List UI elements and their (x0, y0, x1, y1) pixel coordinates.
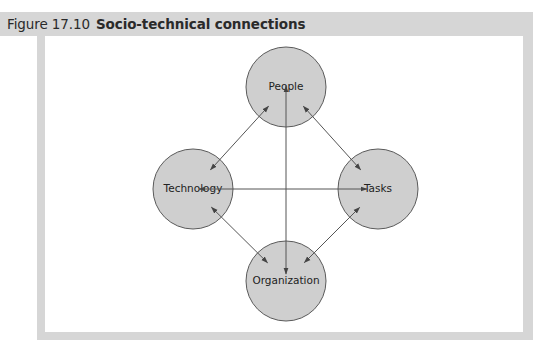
node-label-organization: Organization (252, 274, 319, 286)
node-label-technology: Technology (163, 182, 223, 194)
socio-technical-diagram: PeopleTechnologyTasksOrganization (0, 0, 560, 354)
edge-people-tasks (303, 106, 360, 169)
edge-technology-organization (211, 207, 267, 262)
edge-tasks-organization (304, 207, 359, 262)
edge-people-technology (211, 106, 269, 170)
node-label-tasks: Tasks (363, 182, 392, 194)
